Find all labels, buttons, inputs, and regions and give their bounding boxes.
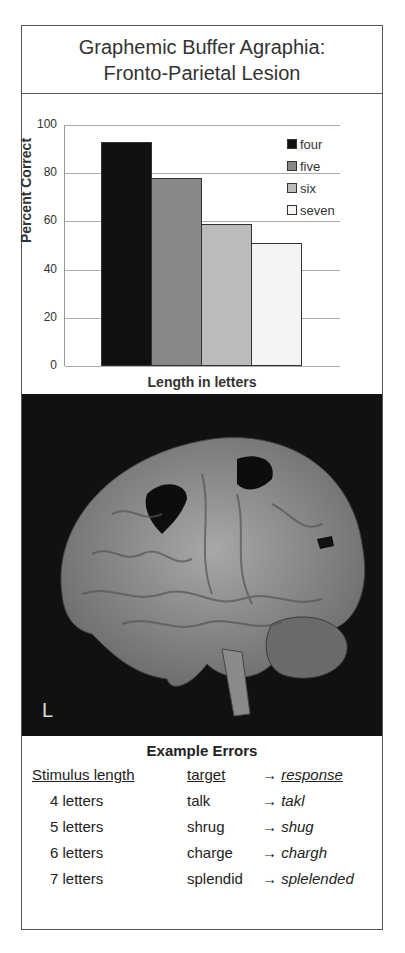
gridline [65, 366, 340, 367]
response-word: → takl [262, 792, 305, 809]
brain-image: L [22, 394, 382, 736]
legend-label: four [300, 137, 322, 152]
legend-item-six: six [287, 177, 335, 199]
errors-title: Example Errors [22, 742, 382, 759]
gridline [65, 125, 340, 126]
legend-item-four: four [287, 133, 335, 155]
x-axis-label: Length in letters [22, 374, 382, 390]
legend-label: five [300, 159, 320, 174]
y-tick-label: 0 [25, 358, 57, 372]
response-word: → splelended [262, 870, 354, 887]
chart-legend: fourfivesixseven [287, 133, 335, 221]
y-tick-label: 20 [25, 310, 57, 324]
stimulus-length: 4 letters [32, 792, 103, 809]
legend-label: six [300, 181, 316, 196]
title-line-2: Fronto-Parietal Lesion [104, 60, 301, 86]
y-tick-label: 40 [25, 262, 57, 276]
stimulus-length: 7 letters [32, 870, 103, 887]
error-row: 5 lettersshrug→ shug [32, 818, 372, 844]
arrow-icon: → [262, 844, 277, 861]
error-row: 7 letterssplendid→ splelended [32, 870, 372, 896]
legend-swatch-icon [287, 161, 297, 171]
bar-five [151, 178, 202, 366]
figure-title: Graphemic Buffer Agraphia: Fronto-Pariet… [22, 26, 382, 94]
target-word: charge [187, 844, 233, 861]
header-stimulus-length: Stimulus length [32, 766, 135, 783]
arrow-icon: → [262, 870, 277, 887]
arrow-icon: → [262, 792, 277, 809]
response-word: → chargh [262, 844, 327, 861]
title-line-1: Graphemic Buffer Agraphia: [79, 34, 325, 60]
stimulus-length: 6 letters [32, 844, 103, 861]
response-word: → shug [262, 818, 314, 835]
y-tick-label: 100 [25, 117, 57, 131]
legend-swatch-icon [287, 183, 297, 193]
legend-swatch-icon [287, 139, 297, 149]
header-response: → response [262, 766, 343, 783]
header-target: target [187, 766, 225, 783]
stimulus-length: 5 letters [32, 818, 103, 835]
legend-swatch-icon [287, 205, 297, 215]
example-errors-table: Example Errors Stimulus length target → … [22, 736, 382, 931]
figure-frame: Graphemic Buffer Agraphia: Fronto-Pariet… [21, 25, 383, 930]
hemisphere-label: L [42, 699, 53, 722]
bar-six [201, 224, 252, 366]
target-word: shrug [187, 818, 225, 835]
y-tick-label: 60 [25, 213, 57, 227]
error-row: 6 letterscharge→ chargh [32, 844, 372, 870]
target-word: splendid [187, 870, 243, 887]
bar-four [101, 142, 152, 366]
legend-item-seven: seven [287, 199, 335, 221]
error-row: 4 letterstalk→ takl [32, 792, 372, 818]
legend-label: seven [300, 203, 335, 218]
target-word: talk [187, 792, 210, 809]
y-tick-label: 80 [25, 165, 57, 179]
errors-header-row: Stimulus length target → response [32, 766, 372, 792]
arrow-icon: → [262, 766, 277, 783]
legend-item-five: five [287, 155, 335, 177]
bar-chart: Percent Correct 020406080100 fourfivesix… [22, 93, 382, 394]
arrow-icon: → [262, 818, 277, 835]
bar-seven [251, 243, 302, 366]
brain-render-icon [22, 394, 382, 736]
